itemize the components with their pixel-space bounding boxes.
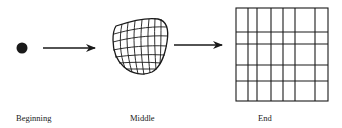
label-middle: Middle [130,113,155,123]
diagram-canvas: Beginning Middle End [0,0,342,128]
label-end: End [258,113,272,123]
middle-warped-grid [113,18,168,75]
beginning-dot-icon [17,43,28,54]
end-rectangular-grid [236,8,328,101]
label-beginning: Beginning [16,113,51,123]
